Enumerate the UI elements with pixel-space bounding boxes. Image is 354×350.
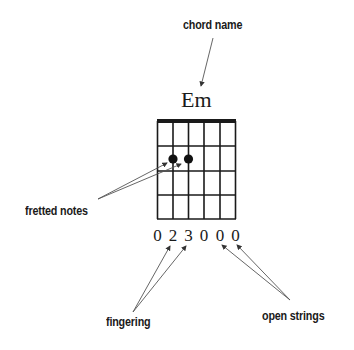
open-strings-arrow	[237, 245, 290, 300]
fretted-note-dot	[184, 154, 193, 163]
fingering-label: fingering	[106, 315, 150, 329]
chord-name-arrow	[201, 38, 213, 86]
fretted-notes-arrow	[98, 164, 181, 199]
fingering-number: 3	[183, 226, 195, 246]
chord-diagram: chord name Em	[0, 0, 354, 350]
fingering-numbers: 0 2 3 0 0 0	[0, 226, 354, 248]
open-strings-label: open strings	[262, 309, 324, 323]
fingering-number: 0	[230, 226, 242, 246]
open-strings-arrow	[222, 245, 290, 300]
fingering-number: 0	[198, 226, 210, 246]
fingering-number: 0	[214, 226, 226, 246]
fingering-arrow	[133, 246, 170, 312]
fretted-notes-arrow	[98, 163, 167, 199]
fretboard-svg	[0, 0, 354, 350]
fretted-notes-label: fretted notes	[25, 204, 88, 218]
fingering-number: 2	[167, 226, 179, 246]
nut	[157, 119, 236, 123]
fingering-number: 0	[152, 226, 164, 246]
fretted-note-dot	[168, 154, 177, 163]
fingering-arrow	[133, 246, 186, 312]
